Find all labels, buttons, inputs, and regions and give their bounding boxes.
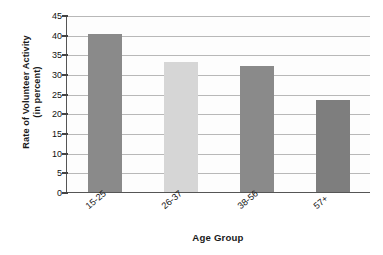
y-axis-tick-label: 25 [38,90,62,100]
bar [240,66,274,192]
x-axis-tick-labels: 15-2526-3738-5657+ [66,193,370,231]
bar-chart-figure: Rate of Volunteer Activity (in percent) … [0,0,383,255]
bar [164,62,198,192]
bars-layer [67,16,370,192]
y-axis-tick-label: 15 [38,129,62,139]
y-axis-tick-label: 30 [38,70,62,80]
x-axis-tick-label: 57+ [312,193,330,211]
y-axis-title-line-1: Rate of Volunteer Activity [21,35,33,148]
y-axis-tick-labels: 454035302520151050 [38,10,62,198]
x-axis-title: Age Group [66,232,370,243]
bar [88,34,122,193]
bar [316,100,350,192]
y-axis-tick-label: 20 [38,109,62,119]
plot-area [66,16,370,193]
y-axis-tick-label: 10 [38,149,62,159]
y-axis-tick-label: 0 [38,188,62,198]
y-axis-tick-label: 5 [38,168,62,178]
y-axis-tick-label: 45 [38,11,62,21]
y-axis-tick-label: 35 [38,50,62,60]
y-axis-tick-label: 40 [38,31,62,41]
